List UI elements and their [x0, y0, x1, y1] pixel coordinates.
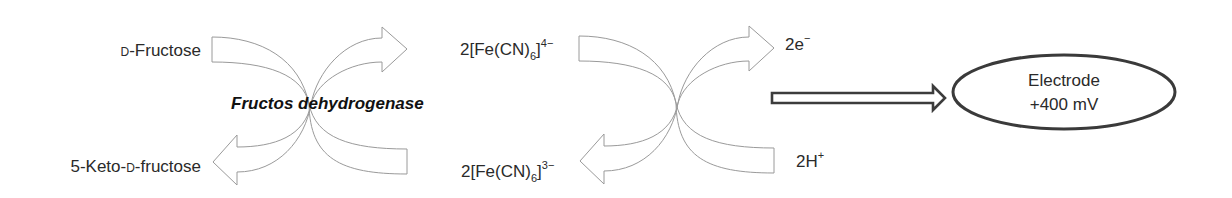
- substrate-label: D-Fructose: [121, 41, 201, 60]
- mediator-crossing-arrows-icon: [579, 26, 774, 184]
- electrode-potential: +400 mV: [1030, 95, 1099, 114]
- ferri-charge: 3−: [542, 159, 555, 171]
- product-lead: 5-Keto-: [70, 157, 126, 176]
- electrons-charge: −: [804, 32, 810, 44]
- enzyme-label: Fructos dehydrogenase: [231, 94, 424, 113]
- electrode-label: Electrode: [1028, 71, 1100, 90]
- ferri-coef: 2[Fe(CN): [461, 162, 531, 181]
- substrate-name: -Fructose: [129, 41, 201, 60]
- hollow-right-arrow-icon: [772, 86, 945, 110]
- reaction-diagram: Electrode +400 mV D-Fructose 5-Keto-D-fr…: [0, 0, 1232, 198]
- electrons-label: 2e−: [785, 32, 810, 54]
- substrate-d-prefix: D: [121, 45, 130, 59]
- ferricyanide-label: 2[Fe(CN)6]3−: [461, 159, 554, 184]
- ferro-coef: 2[Fe(CN): [460, 40, 530, 59]
- ferro-charge: 4−: [541, 37, 554, 49]
- electrode-ellipse: [953, 55, 1175, 129]
- ferrocyanide-label: 2[Fe(CN)6]4−: [460, 37, 553, 62]
- protons-label: 2H+: [796, 149, 824, 171]
- product-label: 5-Keto-D-fructose: [70, 157, 201, 176]
- product-name: -fructose: [135, 157, 201, 176]
- electrons-base: 2e: [785, 35, 804, 54]
- product-d-prefix: D: [126, 161, 135, 175]
- protons-base: 2H: [796, 152, 818, 171]
- protons-charge: +: [818, 149, 824, 161]
